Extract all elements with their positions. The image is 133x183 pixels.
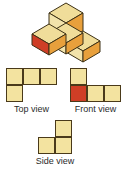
front-view-cell-r1c2 <box>104 85 121 102</box>
top-view-cell-r0c2 <box>40 68 57 85</box>
front-view-cell-r0c0 <box>70 68 87 85</box>
top-view-grid <box>6 68 57 102</box>
isometric-cube-structure <box>0 0 133 66</box>
orthographic-views: Top view Front view Side view <box>0 66 133 183</box>
front-view-label: Front view <box>64 104 127 115</box>
top-view-cell-r1c0 <box>6 85 23 102</box>
side-view-grid <box>38 120 72 154</box>
top-view-label: Top view <box>1 104 62 115</box>
isometric-svg <box>0 0 133 66</box>
side-view-cell-r1c1 <box>55 137 72 154</box>
top-view-cell-r0c0 <box>6 68 23 85</box>
front-view-cell-r1c1 <box>87 85 104 102</box>
top-view-cell-r0c1 <box>23 68 40 85</box>
side-view-cell-r1c0 <box>38 137 55 154</box>
front-view-grid <box>70 68 121 102</box>
top-view-block: Top view <box>6 68 57 102</box>
cube-views-figure: Top view Front view Side view <box>0 0 133 183</box>
front-view-block: Front view <box>70 68 121 102</box>
front-view-cell-r1c0-red <box>70 85 87 102</box>
side-view-cell-r0c1 <box>55 120 72 137</box>
side-view-block: Side view <box>38 120 72 154</box>
side-view-label: Side view <box>25 156 85 167</box>
